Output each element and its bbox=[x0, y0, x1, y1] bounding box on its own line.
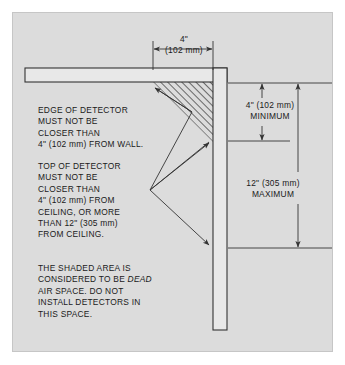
note-shaded-line3: AIR SPACE. DO NOT bbox=[38, 286, 124, 296]
note-shaded-line2-before: CONSIDERED TO BE bbox=[38, 274, 128, 284]
figure-root: 4"(102 mm) 4" (102 mm)MINIMUM 12" (305 m… bbox=[0, 0, 345, 365]
width-dimension-value: 4" bbox=[180, 34, 188, 44]
note-shaded-line1: THE SHADED AREA IS bbox=[38, 263, 131, 273]
note-top-of-detector: TOP OF DETECTOR MUST NOT BE CLOSER THAN … bbox=[38, 161, 121, 241]
width-dimension-label: 4"(102 mm) bbox=[153, 34, 215, 57]
dead-air-space-region bbox=[153, 82, 213, 142]
minimum-dimension-value: 4" (102 mm) bbox=[246, 100, 295, 110]
maximum-dimension-qualifier: MAXIMUM bbox=[252, 189, 294, 199]
minimum-dimension-label: 4" (102 mm)MINIMUM bbox=[233, 100, 307, 123]
ceiling-structure bbox=[25, 68, 227, 82]
wall-structure bbox=[213, 68, 227, 330]
maximum-dimension-value: 12" (305 mm) bbox=[246, 178, 299, 188]
width-dimension-metric: (102 mm) bbox=[165, 45, 203, 55]
minimum-dimension-qualifier: MINIMUM bbox=[250, 111, 289, 121]
note-edge-of-detector: EDGE OF DETECTOR MUST NOT BE CLOSER THAN… bbox=[38, 105, 143, 151]
note-shaded-area: THE SHADED AREA IS CONSIDERED TO BE DEAD… bbox=[38, 263, 152, 320]
maximum-dimension-label: 12" (305 mm)MAXIMUM bbox=[233, 178, 313, 201]
note-shaded-line5: THIS SPACE. bbox=[38, 309, 92, 319]
note-shaded-line4: INSTALL DETECTORS IN bbox=[38, 297, 141, 307]
note-shaded-dead-emphasis: DEAD bbox=[128, 274, 152, 284]
